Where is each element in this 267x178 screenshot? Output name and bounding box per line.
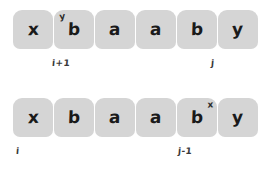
superscript-suffix: x <box>208 100 214 109</box>
cell-top-1: x <box>13 10 53 49</box>
cell-glyph: b <box>191 21 204 38</box>
cell-top-6: y <box>218 10 258 49</box>
cell-char: x <box>27 19 39 39</box>
index-label-i-plus-1: i+1 <box>52 58 71 68</box>
cell-glyph: x <box>27 109 39 126</box>
cell-glyph: a <box>109 109 121 126</box>
cell-glyph: b <box>68 109 81 126</box>
cell-char: a <box>109 19 121 39</box>
superscript-prefix: y <box>59 12 66 22</box>
cell-glyph: yb <box>68 21 81 38</box>
index-label-j-minus-1: j-1 <box>178 146 193 156</box>
string-diagram: x yb a a b y i+1 j x <box>0 0 267 178</box>
cell-top-4: a <box>136 10 176 49</box>
index-label-i: i <box>16 146 20 156</box>
cell-glyph: y <box>232 109 244 126</box>
cell-glyph: a <box>150 21 162 38</box>
cell-glyph: x <box>27 21 39 38</box>
cell-char: b <box>191 107 204 127</box>
cell-char: a <box>109 107 121 127</box>
cell-bottom-3: a <box>95 98 135 137</box>
cell-char: b <box>68 107 81 127</box>
cell-bottom-5: bx <box>177 98 217 137</box>
cell-char: a <box>150 107 162 127</box>
cell-char: y <box>232 19 244 39</box>
cell-char: a <box>150 19 162 39</box>
cell-char: x <box>27 107 39 127</box>
cell-top-3: a <box>95 10 135 49</box>
cell-bottom-6: y <box>218 98 258 137</box>
cell-bottom-4: a <box>136 98 176 137</box>
bottom-row: x b a a bx y i j-1 <box>0 94 267 172</box>
cell-glyph: bx <box>191 109 204 126</box>
top-row: x yb a a b y i+1 j <box>0 6 267 84</box>
cell-char: b <box>191 19 204 39</box>
cell-char: b <box>68 19 81 39</box>
cell-top-2: yb <box>54 10 94 49</box>
index-label-j: j <box>211 58 215 68</box>
cell-glyph: y <box>232 21 244 38</box>
cell-char: y <box>232 107 244 127</box>
bottom-row-cells: x b a a bx y <box>13 98 258 137</box>
cell-glyph: a <box>150 109 162 126</box>
cell-glyph: a <box>109 21 121 38</box>
cell-top-5: b <box>177 10 217 49</box>
top-row-cells: x yb a a b y <box>13 10 258 49</box>
cell-bottom-2: b <box>54 98 94 137</box>
cell-bottom-1: x <box>13 98 53 137</box>
